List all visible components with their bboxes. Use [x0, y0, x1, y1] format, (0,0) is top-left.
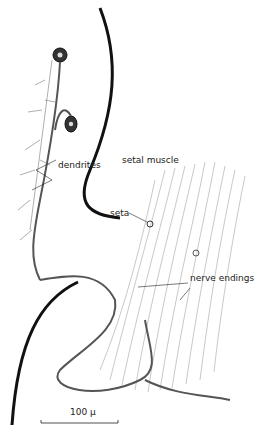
- scale-bar: [41, 420, 118, 423]
- leader-lines: [32, 160, 190, 300]
- scale-bar-label: 100 µ: [70, 407, 96, 417]
- seta-circle-2: [193, 250, 199, 256]
- cuticle-line-upper: [84, 8, 120, 218]
- nerve-trunk: [33, 62, 230, 400]
- label-seta: seta: [110, 208, 129, 218]
- illustration-canvas: [0, 0, 259, 434]
- cuticle-line-lower: [12, 282, 78, 425]
- label-setal-muscle: setal muscle: [122, 155, 179, 165]
- seta-circle: [147, 221, 153, 227]
- label-dendrites: dendrites: [58, 160, 101, 170]
- label-nerve-endings: nerve endings: [190, 273, 254, 283]
